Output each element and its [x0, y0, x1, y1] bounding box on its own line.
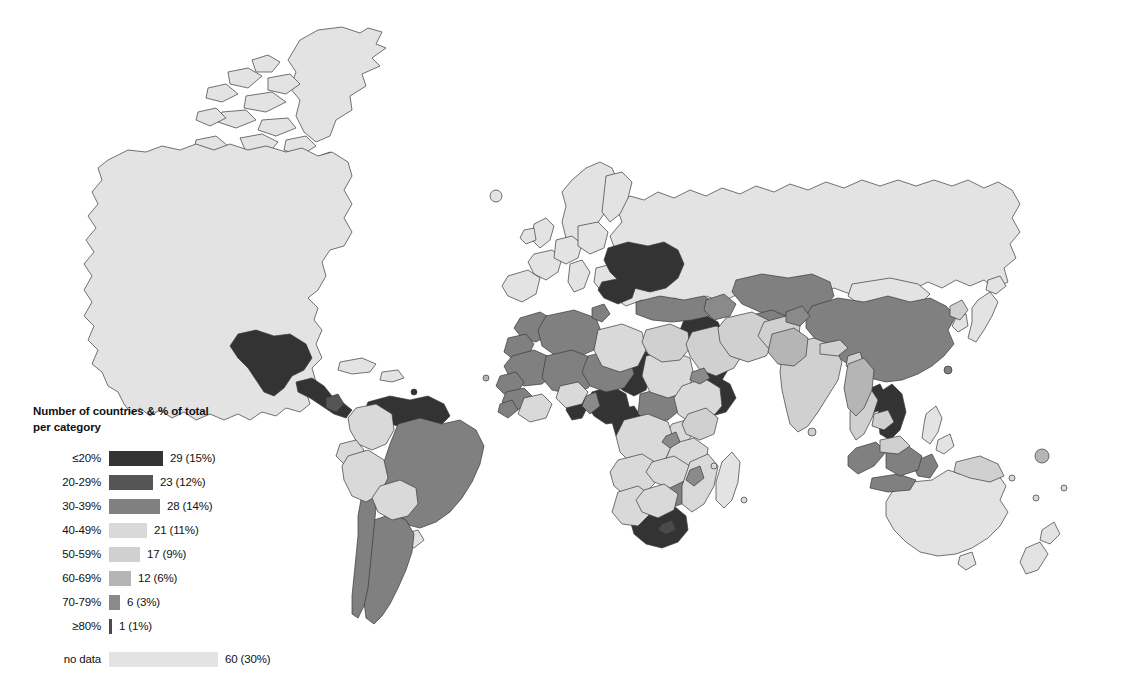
- legend-row-count: 1 (1%): [112, 620, 152, 632]
- legend-row-swatch: [109, 652, 218, 667]
- legend-title-line-2: per category: [33, 421, 101, 433]
- legend-row-swatch: [109, 595, 120, 610]
- island-marker-comoros: [711, 463, 717, 469]
- region-indonesia-java: [870, 474, 916, 492]
- legend-row-swatch: [109, 475, 153, 490]
- legend-row: 60-69% 12 (6%): [33, 566, 293, 590]
- legend-row-swatch: [109, 571, 131, 586]
- legend-title-line-1: Number of countries & % of total: [33, 405, 209, 417]
- legend-rows: ≤20% 29 (15%) 20-29% 23 (12%) 30-39% 28 …: [33, 446, 293, 671]
- region-arctic-islands-7: [258, 118, 296, 136]
- legend-row-count: 60 (30%): [218, 653, 270, 665]
- region-arctic-islands-5: [244, 92, 286, 112]
- region-british-isles: [532, 218, 554, 248]
- legend-row-count: 29 (15%): [163, 452, 215, 464]
- legend-row-count: 23 (12%): [153, 476, 205, 488]
- region-philippines: [922, 406, 942, 444]
- region-cuba: [338, 358, 376, 374]
- legend-row-label: 20-29%: [33, 476, 109, 488]
- legend-row: 50-59% 17 (9%): [33, 542, 293, 566]
- region-italy: [568, 260, 590, 292]
- island-marker-solomon: [1009, 475, 1015, 481]
- legend-row: 40-49% 21 (11%): [33, 518, 293, 542]
- legend-row: ≥80% 1 (1%): [33, 614, 293, 638]
- legend-row-label: 40-49%: [33, 524, 109, 536]
- legend-row-count: 12 (6%): [131, 572, 177, 584]
- region-arctic-islands-4: [206, 84, 238, 102]
- legend-row-label: 30-39%: [33, 500, 109, 512]
- island-marker-fiji: [1061, 485, 1067, 491]
- region-libya: [594, 324, 646, 372]
- legend-row-count: 28 (14%): [160, 500, 212, 512]
- island-marker-trinidad: [411, 389, 417, 395]
- region-tunisia: [592, 304, 610, 322]
- legend-row-label: 60-69%: [33, 572, 109, 584]
- legend-row-label: ≥80%: [33, 620, 109, 632]
- legend-row: 30-39% 28 (14%): [33, 494, 293, 518]
- region-tasmania: [958, 552, 976, 570]
- island-marker-cape-verde: [483, 375, 489, 381]
- region-arctic-islands-1: [252, 55, 280, 72]
- figure-root: Number of countries & % of total per cat…: [0, 0, 1136, 687]
- legend-row-swatch: [109, 523, 147, 538]
- legend-row-label: ≤20%: [33, 452, 109, 464]
- legend: Number of countries & % of total per cat…: [33, 404, 293, 671]
- legend-row-count: 17 (9%): [140, 548, 186, 560]
- region-greenland: [288, 27, 386, 142]
- legend-row-count: 6 (3%): [120, 596, 160, 608]
- island-marker-vanuatu: [1033, 495, 1039, 501]
- region-new-zealand-south: [1020, 542, 1048, 574]
- legend-row-swatch: [109, 547, 140, 562]
- legend-row-label: 70-79%: [33, 596, 109, 608]
- legend-row-swatch: [109, 451, 163, 466]
- legend-title: Number of countries & % of total per cat…: [33, 404, 248, 435]
- region-poland-baltics: [578, 222, 608, 254]
- legend-row: 70-79% 6 (3%): [33, 590, 293, 614]
- island-marker-mauritius: [741, 497, 747, 503]
- region-philippines-2: [936, 434, 954, 454]
- island-marker-taiwan: [944, 366, 952, 374]
- region-iberia: [502, 270, 540, 302]
- island-marker-iceland: [490, 190, 502, 202]
- region-madagascar: [716, 452, 740, 508]
- island-marker-pacific: [1035, 449, 1049, 463]
- legend-row: ≤20% 29 (15%): [33, 446, 293, 470]
- legend-row: 20-29% 23 (12%): [33, 470, 293, 494]
- legend-row-no-data: no data 60 (30%): [33, 647, 293, 671]
- region-hispaniola: [380, 370, 404, 382]
- region-japan: [968, 292, 998, 342]
- legend-row-label: no data: [33, 653, 109, 665]
- legend-row-count: 21 (11%): [147, 524, 199, 536]
- legend-row-swatch: [109, 499, 160, 514]
- legend-row-label: 50-59%: [33, 548, 109, 560]
- region-new-zealand-north: [1040, 522, 1060, 544]
- island-marker-sri-lanka: [808, 428, 816, 436]
